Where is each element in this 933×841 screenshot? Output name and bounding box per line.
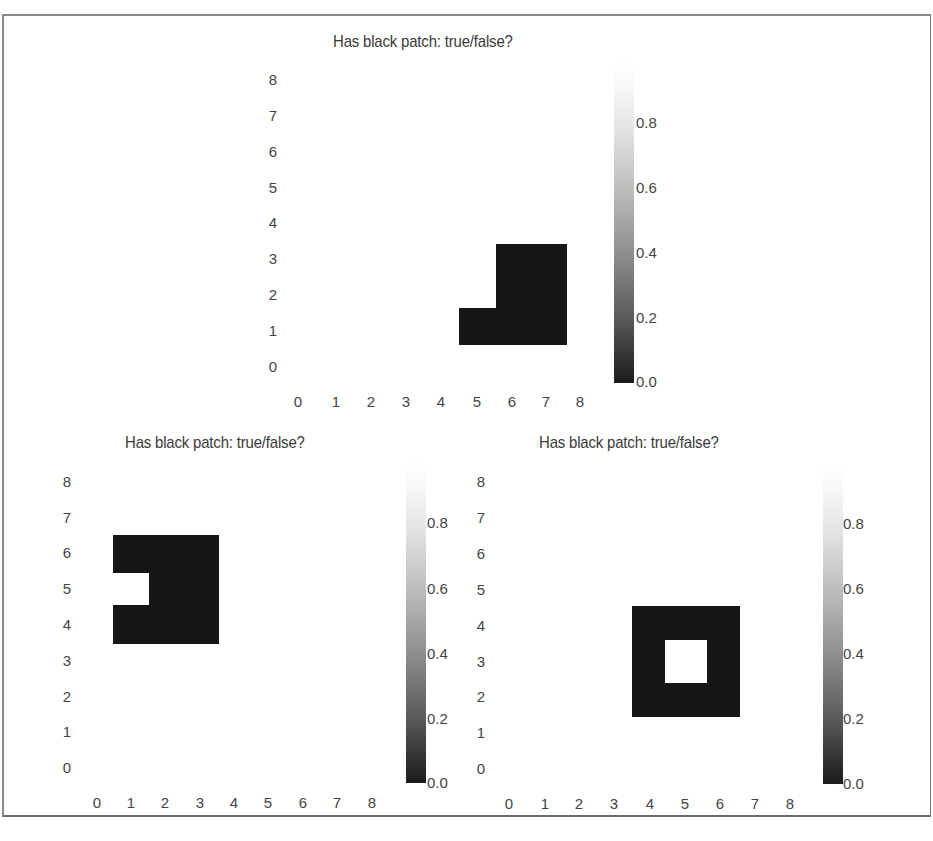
- y-tick: 6: [269, 143, 277, 160]
- colorbar-tick: 0.0: [427, 774, 448, 791]
- colorbar-tick: 0.6: [427, 580, 448, 597]
- y-tick: 1: [269, 322, 277, 339]
- chart-title: Has black patch: true/false?: [125, 433, 305, 453]
- y-tick: 3: [269, 250, 277, 267]
- x-tick: 0: [294, 393, 302, 410]
- x-tick: 5: [264, 794, 272, 811]
- y-tick: 4: [63, 616, 71, 633]
- x-tick: 0: [505, 795, 513, 812]
- colorbar-tick: 0.0: [843, 775, 864, 792]
- colorbar-gradient: [614, 60, 634, 383]
- x-tick: 7: [542, 393, 550, 410]
- x-tick: 0: [93, 794, 101, 811]
- x-tick: 4: [437, 393, 445, 410]
- y-tick: 8: [269, 71, 277, 88]
- y-tick: 7: [477, 509, 485, 526]
- x-tick: 3: [196, 794, 204, 811]
- x-tick: 2: [161, 794, 169, 811]
- y-tick: 0: [269, 358, 277, 375]
- y-tick: 5: [63, 580, 71, 597]
- y-tick: 5: [477, 581, 485, 598]
- black-patch-cell: [149, 571, 219, 607]
- chart-title: Has black patch: true/false?: [333, 32, 513, 52]
- x-tick: 6: [716, 795, 724, 812]
- colorbar-tick: 0.4: [636, 244, 657, 261]
- x-tick: 3: [610, 795, 618, 812]
- x-tick: 4: [230, 794, 238, 811]
- black-patch-cell: [459, 308, 567, 345]
- x-tick: 1: [541, 795, 549, 812]
- y-tick: 5: [269, 179, 277, 196]
- x-tick: 3: [402, 393, 410, 410]
- colorbar-tick: 0.6: [843, 580, 864, 597]
- y-tick: 3: [63, 652, 71, 669]
- y-tick: 8: [63, 473, 71, 490]
- colorbar-tick: 0.0: [636, 373, 657, 390]
- x-tick: 6: [508, 393, 516, 410]
- colorbar-tick: 0.2: [636, 309, 657, 326]
- y-tick: 1: [477, 724, 485, 741]
- black-patch-cell: [632, 638, 665, 685]
- x-tick: 8: [576, 393, 584, 410]
- colorbar-tick: 0.8: [427, 514, 448, 531]
- x-tick: 2: [367, 393, 375, 410]
- y-tick: 6: [477, 545, 485, 562]
- x-tick: 5: [473, 393, 481, 410]
- black-patch-cell: [707, 638, 740, 685]
- colorbar-tick: 0.8: [843, 515, 864, 532]
- colorbar-gradient: [406, 460, 426, 783]
- colorbar-tick: 0.6: [636, 179, 657, 196]
- y-tick: 6: [63, 544, 71, 561]
- x-tick: 5: [681, 795, 689, 812]
- x-tick: 8: [368, 794, 376, 811]
- y-tick: 8: [477, 473, 485, 490]
- y-tick: 1: [63, 723, 71, 740]
- x-tick: 4: [646, 795, 654, 812]
- black-patch-cell: [113, 535, 219, 573]
- x-tick: 8: [786, 795, 794, 812]
- y-tick: 4: [269, 214, 277, 231]
- colorbar-tick: 0.4: [843, 645, 864, 662]
- x-tick: 7: [751, 795, 759, 812]
- colorbar-tick: 0.2: [843, 710, 864, 727]
- chart-title: Has black patch: true/false?: [539, 433, 719, 453]
- black-patch-cell: [496, 244, 567, 310]
- x-tick: 7: [333, 794, 341, 811]
- x-tick: 1: [127, 794, 135, 811]
- black-patch-cell: [632, 683, 740, 717]
- colorbar-tick: 0.4: [427, 645, 448, 662]
- black-patch-cell: [113, 605, 219, 644]
- y-tick: 7: [269, 107, 277, 124]
- black-patch-cell: [632, 606, 740, 640]
- x-tick: 2: [575, 795, 583, 812]
- colorbar-gradient: [823, 461, 843, 784]
- y-tick: 3: [477, 653, 485, 670]
- y-tick: 2: [269, 286, 277, 303]
- x-tick: 6: [299, 794, 307, 811]
- colorbar-tick: 0.8: [636, 114, 657, 131]
- y-tick: 2: [477, 688, 485, 705]
- x-tick: 1: [332, 393, 340, 410]
- y-tick: 4: [477, 617, 485, 634]
- y-tick: 7: [63, 509, 71, 526]
- y-tick: 0: [477, 760, 485, 777]
- y-tick: 0: [63, 759, 71, 776]
- y-tick: 2: [63, 688, 71, 705]
- colorbar-tick: 0.2: [427, 710, 448, 727]
